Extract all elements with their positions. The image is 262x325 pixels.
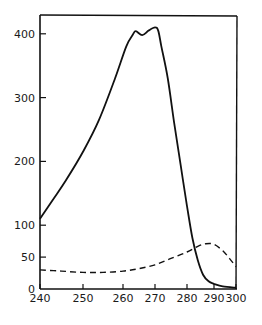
x-tick-label: 290: [204, 292, 225, 305]
y-tick-label: 200: [14, 155, 35, 168]
y-tick-label: 50: [21, 251, 35, 264]
dashed-curve: [40, 243, 236, 272]
x-tick-label: 250: [73, 292, 94, 305]
y-tick-label: 100: [14, 219, 35, 232]
right-border: [236, 16, 237, 289]
x-axis-ticks: 240250260270280290300: [30, 284, 247, 305]
x-tick-label: 270: [145, 292, 166, 305]
plot-frame: [40, 15, 237, 289]
top-border: [40, 15, 237, 16]
solid-curve: [40, 27, 236, 287]
y-tick-label: 0: [28, 283, 35, 296]
absorbance-chart: 240250260270280290300 050100200300400: [0, 0, 262, 325]
x-tick-label: 260: [113, 292, 134, 305]
x-tick-label: 280: [177, 292, 198, 305]
y-tick-label: 400: [14, 28, 35, 41]
y-tick-label: 300: [14, 92, 35, 105]
y-axis-ticks: 050100200300400: [14, 28, 46, 296]
x-tick-label: 300: [226, 292, 247, 305]
